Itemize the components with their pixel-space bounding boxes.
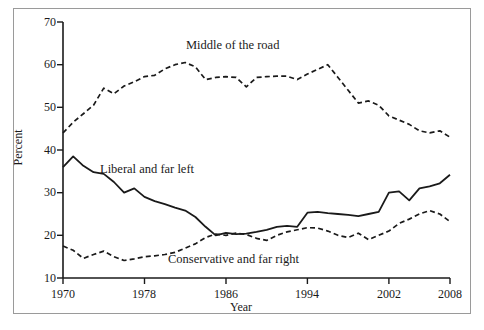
x-tick-label-1970: 1970 (38, 288, 88, 300)
y-tick-label-40: 40 (30, 144, 56, 156)
axis-lines (63, 22, 450, 278)
series-label-liberal-and-far-left: Liberal and far left (100, 162, 194, 177)
y-tick-label-30: 30 (30, 186, 56, 198)
x-tick-label-1978: 1978 (119, 288, 169, 300)
x-tick-label-1994: 1994 (282, 288, 332, 300)
y-axis-title: Percent (11, 118, 26, 178)
chart-figure: 70 60 50 40 30 20 10 1970 1978 1986 1994… (0, 0, 484, 330)
x-axis-ticks (63, 278, 450, 284)
series-path-middle-of-the-road (63, 63, 450, 138)
y-tick-label-70: 70 (30, 16, 56, 28)
x-tick-label-1986: 1986 (201, 288, 251, 300)
y-tick-label-50: 50 (30, 101, 56, 113)
y-tick-label-10: 10 (30, 272, 56, 284)
y-axis-ticks (57, 22, 63, 278)
series-label-conservative-and-far-right: Conservative and far right (168, 252, 299, 267)
x-tick-label-2008: 2008 (425, 288, 475, 300)
y-tick-label-60: 60 (30, 58, 56, 70)
x-tick-label-2002: 2002 (364, 288, 414, 300)
x-axis-title: Year (230, 300, 252, 315)
series-label-middle-of-the-road: Middle of the road (186, 38, 279, 53)
y-tick-label-20: 20 (30, 229, 56, 241)
